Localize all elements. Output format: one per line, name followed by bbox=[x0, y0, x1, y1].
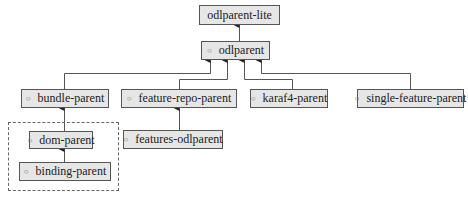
node-single-feature-parent[interactable]: ○ single-feature-parent bbox=[357, 89, 464, 108]
edge-karaf4-parent-to-odlparent bbox=[245, 60, 293, 89]
node-dom-parent[interactable]: ○ dom-parent bbox=[29, 131, 93, 149]
edge-single-feature-parent-to-odlparent bbox=[262, 60, 411, 89]
node-binding-parent[interactable]: ○ binding-parent bbox=[19, 162, 111, 181]
node-label: karaf4-parent bbox=[263, 91, 328, 106]
circle-bullet-icon: ○ bbox=[127, 94, 132, 103]
node-label: bundle-parent bbox=[38, 91, 105, 106]
edge-feature-repo-parent-to-odlparent bbox=[180, 60, 228, 89]
node-label: single-feature-parent bbox=[366, 91, 466, 106]
node-features-odlparent[interactable]: ○ features-odlparent bbox=[123, 130, 223, 149]
circle-bullet-icon: ○ bbox=[123, 135, 128, 144]
circle-bullet-icon: ○ bbox=[355, 94, 360, 103]
node-odlparent[interactable]: ○ odlparent bbox=[201, 41, 270, 60]
node-odlparent-lite[interactable]: odlparent-lite bbox=[199, 5, 280, 25]
circle-bullet-icon: ○ bbox=[27, 136, 32, 145]
circle-bullet-icon: ○ bbox=[207, 46, 212, 55]
node-label: dom-parent bbox=[39, 133, 94, 148]
node-label: odlparent-lite bbox=[207, 8, 272, 23]
node-label: features-odlparent bbox=[135, 132, 222, 147]
circle-bullet-icon: ○ bbox=[26, 94, 31, 103]
circle-bullet-icon: ○ bbox=[251, 94, 256, 103]
node-karaf4-parent[interactable]: ○ karaf4-parent bbox=[250, 89, 328, 108]
node-label: feature-repo-parent bbox=[139, 91, 232, 106]
node-label: odlparent bbox=[219, 43, 264, 58]
edge-bundle-parent-to-odlparent bbox=[65, 60, 211, 89]
node-feature-repo-parent[interactable]: ○ feature-repo-parent bbox=[121, 89, 237, 108]
node-bundle-parent[interactable]: ○ bundle-parent bbox=[21, 89, 109, 108]
node-label: binding-parent bbox=[36, 164, 107, 179]
circle-bullet-icon: ○ bbox=[24, 167, 29, 176]
